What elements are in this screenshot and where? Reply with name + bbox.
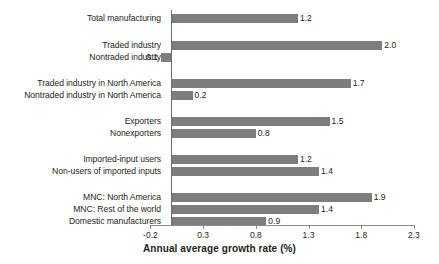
bar xyxy=(172,167,320,176)
x-tick-label: 1.3 xyxy=(303,230,315,240)
x-tick-label: 0.3 xyxy=(197,230,209,240)
bar-value-label: 1.4 xyxy=(321,204,333,214)
category-label: Nontraded industry in North America xyxy=(11,90,161,100)
bar-value-label: 1.2 xyxy=(300,13,312,23)
bar xyxy=(172,79,351,88)
bar-row: Nontraded industry in North America0.2 xyxy=(0,91,439,100)
x-axis-title: Annual average growth rate (%) xyxy=(0,243,439,254)
bar-value-label: 1.5 xyxy=(332,116,344,126)
category-label: MNC: Rest of the world xyxy=(11,204,161,214)
bar xyxy=(172,193,372,202)
x-tick xyxy=(203,225,204,229)
x-tick xyxy=(150,225,151,229)
x-tick xyxy=(309,225,310,229)
x-tick-label: 0.8 xyxy=(250,230,262,240)
bar-value-label: 0.1 xyxy=(146,52,158,62)
x-tick-label: 1.8 xyxy=(355,230,367,240)
category-label: MNC: North America xyxy=(11,192,161,202)
x-tick xyxy=(361,225,362,229)
bar xyxy=(172,155,298,164)
bar-row: Total manufacturing1.2 xyxy=(0,14,439,23)
x-tick-label: -0.2 xyxy=(143,230,158,240)
bar xyxy=(172,91,193,100)
category-label: Total manufacturing xyxy=(11,13,161,23)
bar-row: Traded industry in North America1.7 xyxy=(0,79,439,88)
bar-row: Imported-input users1.2 xyxy=(0,155,439,164)
bar xyxy=(172,14,298,23)
bar-value-label: 1.9 xyxy=(374,192,386,202)
bar-row: Exporters1.5 xyxy=(0,117,439,126)
bar xyxy=(172,41,383,50)
bar-row: MNC: North America1.9 xyxy=(0,193,439,202)
x-tick xyxy=(414,225,415,229)
bar-chart: Total manufacturing1.2Traded industry2.0… xyxy=(0,0,439,264)
category-label: Non-users of imported inputs xyxy=(11,166,161,176)
bar-row: Traded industry2.0 xyxy=(0,41,439,50)
bar-value-label: 2.0 xyxy=(384,40,396,50)
bar-row: Non-users of imported inputs1.4 xyxy=(0,167,439,176)
category-label: Domestic manufacturers xyxy=(11,216,161,226)
bar-value-label: 0.2 xyxy=(195,90,207,100)
bar-value-label: 1.7 xyxy=(353,78,365,88)
x-tick-label: 2.3 xyxy=(408,230,420,240)
category-label: Exporters xyxy=(11,116,161,126)
x-axis-line xyxy=(150,225,415,226)
category-label: Nontraded industry xyxy=(11,52,161,62)
x-tick xyxy=(256,225,257,229)
bar xyxy=(172,129,256,138)
bar-value-label: 1.4 xyxy=(321,166,333,176)
bar-value-label: 1.2 xyxy=(300,154,312,164)
bar-row: Nonexporters0.8 xyxy=(0,129,439,138)
plot-area: Total manufacturing1.2Traded industry2.0… xyxy=(0,0,439,264)
category-label: Traded industry xyxy=(11,40,161,50)
category-label: Traded industry in North America xyxy=(11,78,161,88)
bar xyxy=(172,205,320,214)
bar xyxy=(161,53,172,62)
bar-value-label: 0.8 xyxy=(258,128,270,138)
bar-row: MNC: Rest of the world1.4 xyxy=(0,205,439,214)
bar xyxy=(172,117,330,126)
category-label: Nonexporters xyxy=(11,128,161,138)
bar-row: Nontraded industry0.1 xyxy=(0,53,439,62)
category-label: Imported-input users xyxy=(11,154,161,164)
